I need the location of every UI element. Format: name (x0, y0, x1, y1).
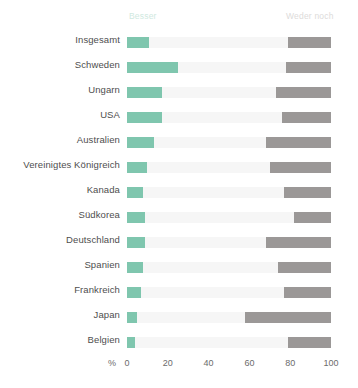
row-plot (127, 130, 331, 155)
bar-segment-besser (127, 287, 141, 298)
bar-segment-weder-noch (278, 262, 331, 273)
bar-segment-mitte (137, 312, 245, 323)
row-plot (127, 80, 331, 105)
bar-segment-mitte (141, 287, 284, 298)
row-plot (127, 255, 331, 280)
chart-row: Insgesamt (0, 30, 358, 55)
row-label-frankreich: Frankreich (0, 284, 120, 295)
row-plot (127, 330, 331, 355)
bar-segment-weder-noch (284, 287, 331, 298)
bar-segment-weder-noch (284, 187, 331, 198)
row-label-vereinigtes-k-nigreich: Vereinigtes Königreich (0, 159, 120, 170)
bar-segment-mitte (145, 237, 265, 248)
bar-segment-mitte (147, 162, 269, 173)
bar-segment-mitte (145, 212, 294, 223)
bar-segment-mitte (178, 62, 286, 73)
bar-segment-mitte (143, 262, 278, 273)
bar-segment-weder-noch (288, 37, 331, 48)
bar-segment-besser (127, 112, 162, 123)
x-tick-20: 20 (163, 358, 173, 368)
bar-segment-weder-noch (266, 137, 331, 148)
row-label-belgien: Belgien (0, 334, 120, 345)
bar-segment-weder-noch (245, 312, 331, 323)
chart-row: Vereinigtes Königreich (0, 155, 358, 180)
bar-segment-weder-noch (282, 112, 331, 123)
chart-row: Schweden (0, 55, 358, 80)
legend-label-besser: Besser (129, 11, 157, 21)
row-plot (127, 105, 331, 130)
bar-segment-mitte (162, 87, 276, 98)
row-plot (127, 305, 331, 330)
chart-row: Kanada (0, 180, 358, 205)
bar-segment-mitte (149, 37, 288, 48)
x-tick-40: 40 (204, 358, 214, 368)
x-axis: % 020406080100 (0, 358, 358, 378)
bar-segment-mitte (162, 112, 282, 123)
stacked-bar-chart: Besser Weder noch InsgesamtSchwedenUngar… (0, 0, 358, 388)
bar-segment-weder-noch (294, 212, 331, 223)
bar-segment-weder-noch (288, 337, 331, 348)
chart-row: Ungarn (0, 80, 358, 105)
bar-segment-weder-noch (276, 87, 331, 98)
row-plot (127, 55, 331, 80)
bar-segment-besser (127, 212, 145, 223)
row-plot (127, 205, 331, 230)
chart-row: Frankreich (0, 280, 358, 305)
row-label-schweden: Schweden (0, 59, 120, 70)
chart-row: Spanien (0, 255, 358, 280)
bar-segment-mitte (135, 337, 288, 348)
row-plot (127, 280, 331, 305)
row-label-insgesamt: Insgesamt (0, 34, 120, 45)
chart-row: Südkorea (0, 205, 358, 230)
bar-segment-weder-noch (270, 162, 331, 173)
row-plot (127, 230, 331, 255)
bar-segment-besser (127, 337, 135, 348)
row-label-japan: Japan (0, 309, 120, 320)
row-label-deutschland: Deutschland (0, 234, 120, 245)
chart-row: Belgien (0, 330, 358, 355)
x-tick-80: 80 (285, 358, 295, 368)
row-label-usa: USA (0, 109, 120, 120)
x-tick-60: 60 (244, 358, 254, 368)
row-plot (127, 155, 331, 180)
row-plot (127, 30, 331, 55)
chart-rows: InsgesamtSchwedenUngarnUSAAustralienVere… (0, 30, 358, 355)
row-label-australien: Australien (0, 134, 120, 145)
bar-segment-besser (127, 187, 143, 198)
bar-segment-besser (127, 87, 162, 98)
bar-segment-weder-noch (266, 237, 331, 248)
bar-segment-besser (127, 162, 147, 173)
bar-segment-besser (127, 262, 143, 273)
bar-segment-besser (127, 62, 178, 73)
bar-segment-weder-noch (286, 62, 331, 73)
row-label-s-dkorea: Südkorea (0, 209, 120, 220)
bar-segment-besser (127, 312, 137, 323)
bar-segment-besser (127, 237, 145, 248)
x-tick-100: 100 (323, 358, 338, 368)
bar-segment-besser (127, 137, 154, 148)
chart-row: Japan (0, 305, 358, 330)
chart-row: Deutschland (0, 230, 358, 255)
row-label-kanada: Kanada (0, 184, 120, 195)
row-plot (127, 180, 331, 205)
legend-label-weder-noch: Weder noch (286, 11, 334, 21)
bar-segment-mitte (154, 137, 266, 148)
bar-segment-mitte (143, 187, 284, 198)
row-label-ungarn: Ungarn (0, 84, 120, 95)
x-axis-unit-label: % (108, 358, 116, 368)
row-label-spanien: Spanien (0, 259, 120, 270)
x-tick-0: 0 (124, 358, 129, 368)
chart-row: USA (0, 105, 358, 130)
chart-row: Australien (0, 130, 358, 155)
bar-segment-besser (127, 37, 149, 48)
